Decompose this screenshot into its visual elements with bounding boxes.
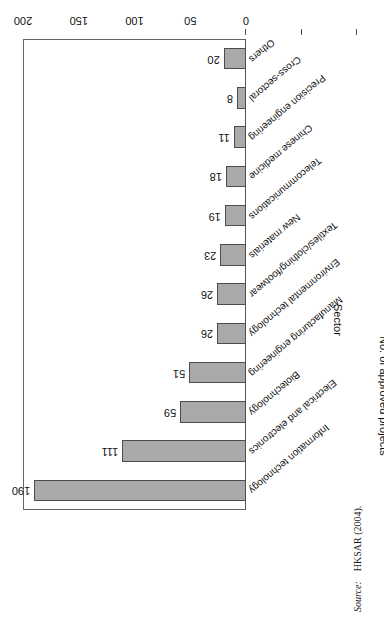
bar-value-label: 11: [218, 132, 229, 144]
bar: [234, 126, 246, 148]
category-label: Electrical and electronics: [247, 378, 339, 458]
bar-value-label: 18: [210, 171, 222, 183]
bar-value-label: 8: [227, 93, 233, 105]
value-axis-tick: [301, 29, 302, 35]
value-axis-title: No. of approved projects: [378, 336, 384, 456]
source-note: Source:HKSAR (2004).: [352, 506, 363, 612]
plot-frame: [23, 39, 246, 510]
bar-value-label: 51: [173, 368, 185, 380]
source-text: HKSAR (2004).: [352, 506, 363, 572]
category-label: Precision engineering: [247, 73, 328, 143]
bar-value-label: 23: [204, 250, 216, 262]
bar: [217, 323, 246, 345]
bar: [189, 362, 246, 384]
bar: [220, 244, 246, 266]
category-axis-title: Sector: [332, 305, 344, 337]
bar: [217, 283, 246, 305]
bar-chart-figure: 050100150200 No. of approved projects 19…: [0, 0, 384, 636]
category-label: Others: [247, 37, 277, 65]
value-axis-tick-label: 150: [65, 15, 93, 27]
value-axis-tick: [245, 29, 246, 35]
bar: [180, 401, 246, 423]
bar-value-label: 26: [201, 289, 213, 301]
value-axis-tick-label: 200: [9, 15, 37, 27]
value-axis-tick-label: 100: [121, 15, 149, 27]
category-label: Information technology: [247, 423, 332, 496]
category-label: Textiles/clothing/footwear: [247, 220, 340, 300]
value-axis-tick-label: 50: [176, 15, 204, 27]
bar-value-label: 190: [12, 485, 30, 497]
bar: [226, 166, 246, 188]
value-axis-tick: [357, 29, 358, 35]
bar: [225, 205, 246, 227]
bar-value-label: 59: [164, 407, 176, 419]
bar: [122, 440, 246, 462]
bar-value-label: 111: [102, 446, 119, 458]
figure-rotated-container: 050100150200 No. of approved projects 19…: [0, 0, 384, 636]
bar-value-label: 20: [207, 54, 219, 66]
bar: [224, 48, 246, 70]
bar: [237, 87, 246, 109]
bar-value-label: 26: [201, 328, 213, 340]
category-label: Manufacturing engineering: [247, 294, 345, 379]
value-axis-tick-label: 0: [232, 15, 260, 27]
bar: [34, 480, 246, 502]
category-label: Environmental technology: [247, 257, 342, 339]
bar-value-label: 19: [209, 211, 221, 223]
source-label: Source:: [352, 581, 363, 612]
value-axis-line: [245, 39, 246, 510]
